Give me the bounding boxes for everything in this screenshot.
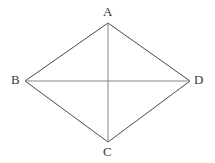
vertex-label-b: B <box>11 73 20 86</box>
edge-BC <box>25 81 108 142</box>
edge-CD <box>108 81 190 142</box>
vertex-label-d: D <box>194 73 203 86</box>
vertex-label-a: A <box>103 5 112 18</box>
geometry-figure: A B C D <box>0 0 215 163</box>
edge-DA <box>108 23 190 81</box>
edge-AB <box>25 23 108 81</box>
figure-canvas <box>0 0 215 163</box>
vertex-label-c: C <box>103 145 112 158</box>
